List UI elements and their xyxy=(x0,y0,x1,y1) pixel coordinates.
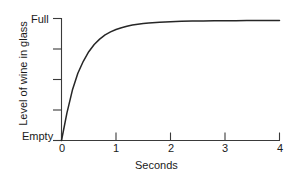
y-axis-ticks xyxy=(53,19,62,141)
x-tick-label-3: 3 xyxy=(219,143,231,154)
x-tick-label-0: 0 xyxy=(56,143,68,154)
wine-level-curve xyxy=(62,21,280,141)
plot-area xyxy=(0,0,297,184)
x-axis-title: Seconds xyxy=(135,160,178,171)
y-axis-title-wrap: Level of wine in glass xyxy=(0,0,22,150)
y-axis-title: Level of wine in glass xyxy=(18,4,29,144)
x-tick-label-1: 1 xyxy=(110,143,122,154)
y-tick-label-full: Full xyxy=(31,14,49,25)
chart-figure: Level of wine in glass Full Empty 0 1 2 … xyxy=(0,0,297,184)
x-tick-label-4: 4 xyxy=(274,143,286,154)
x-axis-ticks xyxy=(62,133,280,141)
x-tick-label-2: 2 xyxy=(165,143,177,154)
y-tick-label-empty: Empty xyxy=(22,131,53,142)
